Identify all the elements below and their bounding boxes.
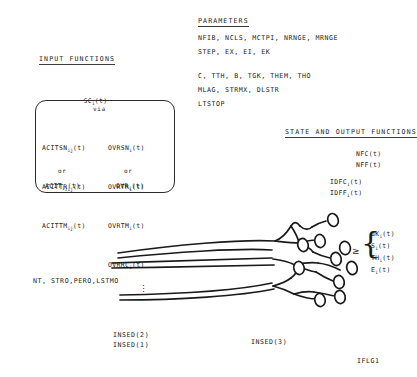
fiber-2-top-edge: [112, 258, 272, 263]
neuron-fiber-diagram: [0, 0, 417, 377]
branch-1c: [291, 226, 299, 243]
branch-1a-arc2: [300, 226, 312, 229]
branch-far-1: [313, 252, 330, 258]
bouton-10: [314, 293, 327, 308]
vertical-dots-icon: ⋮: [139, 285, 148, 294]
branch-3d: [294, 294, 317, 299]
fiber-2-bottom-edge: [112, 265, 274, 268]
branch-3a: [273, 278, 291, 286]
branch-far-2: [312, 221, 326, 227]
inseed-3-label: INSED(3): [251, 337, 287, 348]
branch-2a: [273, 259, 295, 265]
fiber-params-label: NT, STRO,PERO,LSTMO: [33, 276, 119, 287]
bouton-9: [334, 289, 347, 304]
inseed-1-label: INSED(1): [113, 340, 149, 351]
bouton-6: [345, 260, 358, 275]
bouton-4: [339, 241, 352, 256]
bouton-1: [326, 212, 340, 228]
branch-1a-arc: [291, 223, 300, 226]
bouton-2: [296, 237, 309, 252]
bouton-8: [333, 274, 346, 289]
bouton-3: [314, 234, 327, 249]
branch-1b: [275, 241, 299, 243]
branch-2e: [316, 272, 333, 281]
branch-3e: [294, 292, 314, 294]
iflg1-label: IFLG1: [357, 356, 380, 367]
bouton-5: [330, 251, 343, 266]
branch-1a: [275, 226, 291, 241]
branch-3c: [273, 286, 294, 294]
